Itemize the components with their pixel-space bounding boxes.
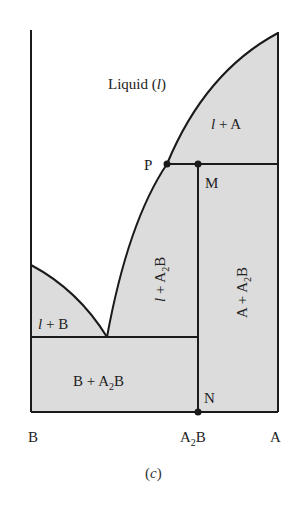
- point-P-marker: [164, 161, 171, 168]
- phase-diagram: Liquid (l) l + A l + A2B A + A2B l + B B…: [0, 0, 295, 505]
- region-l-plus-A: [167, 33, 278, 164]
- point-M-marker: [195, 161, 202, 168]
- axis-label-A: A: [270, 429, 281, 445]
- label-point-P: P: [144, 157, 152, 173]
- axis-label-A2B: A2B: [180, 429, 206, 448]
- figure-caption: (c): [145, 465, 162, 482]
- label-liquid: Liquid (l): [108, 76, 166, 93]
- label-l-plus-B: l + B: [38, 316, 68, 332]
- axis-label-B: B: [28, 429, 38, 445]
- label-point-N: N: [204, 390, 215, 406]
- point-N-marker: [195, 409, 202, 416]
- label-l-plus-A: l + A: [211, 116, 241, 132]
- label-point-M: M: [205, 175, 218, 191]
